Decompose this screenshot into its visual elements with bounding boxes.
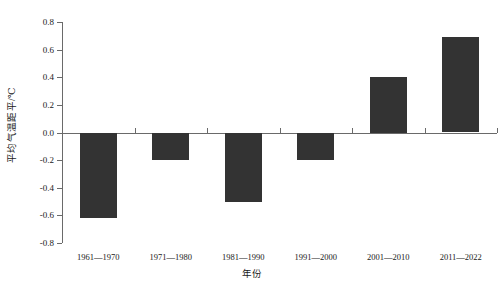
- bar: [80, 133, 117, 219]
- x-axis-tick: [497, 128, 498, 133]
- y-axis-tick: [57, 243, 62, 244]
- y-axis-tick-label-wrap: 0.4: [24, 77, 54, 78]
- y-axis-tick-label: 0.2: [26, 100, 54, 109]
- bar: [152, 133, 189, 161]
- x-axis-tick-label: 1991—2000: [280, 252, 353, 262]
- y-axis-title: 平均气温距平/℃: [0, 0, 22, 250]
- x-axis-tick-label: 2011—2022: [425, 252, 498, 262]
- x-axis-tick: [280, 128, 281, 133]
- y-axis-tick-label-wrap: -0.2: [24, 160, 54, 161]
- y-axis-tick: [57, 160, 62, 161]
- x-axis-title: 年份: [0, 266, 503, 280]
- y-axis-tick: [57, 22, 62, 23]
- y-axis-tick-label: 0.8: [26, 18, 54, 27]
- y-axis-tick-label: -0.8: [26, 239, 54, 248]
- y-axis-tick: [57, 188, 62, 189]
- y-axis-title-label: 平均气温距平/℃: [4, 87, 18, 163]
- x-axis-tick: [207, 128, 208, 133]
- x-axis-tick-label: 2001—2010: [352, 252, 425, 262]
- y-axis-tick: [57, 133, 62, 134]
- y-axis-tick-label-wrap: 0.6: [24, 50, 54, 51]
- y-axis-tick-label-wrap: -0.4: [24, 188, 54, 189]
- bar: [442, 37, 479, 132]
- y-axis-tick-label-wrap: -0.8: [24, 243, 54, 244]
- bar: [370, 77, 407, 132]
- y-axis-tick-label: 0.4: [26, 73, 54, 82]
- y-axis-tick-label-wrap: 0.0: [24, 133, 54, 134]
- y-axis-tick-label: 0.0: [26, 128, 54, 137]
- bar-chart: 平均气温距平/℃ 0.80.60.40.20.0-0.2-0.4-0.6-0.8…: [0, 0, 503, 286]
- y-axis-tick: [57, 77, 62, 78]
- bar: [225, 133, 262, 202]
- y-axis-tick-label: -0.4: [26, 183, 54, 192]
- y-axis-tick: [57, 105, 62, 106]
- x-axis-tick-label: 1961—1970: [62, 252, 135, 262]
- x-axis-tick: [135, 128, 136, 133]
- x-axis-tick: [352, 128, 353, 133]
- y-axis-tick: [57, 50, 62, 51]
- y-axis-tick-label-wrap: -0.6: [24, 215, 54, 216]
- y-axis-tick-label: -0.6: [26, 211, 54, 220]
- y-axis-tick-label: -0.2: [26, 156, 54, 165]
- bar: [297, 133, 334, 161]
- y-axis-tick: [57, 215, 62, 216]
- x-axis-tick: [425, 128, 426, 133]
- y-axis-tick-label-wrap: 0.8: [24, 22, 54, 23]
- x-axis-tick-label: 1971—1980: [135, 252, 208, 262]
- x-axis-title-label: 年份: [242, 269, 262, 279]
- y-axis-tick-label-wrap: 0.2: [24, 105, 54, 106]
- x-axis-zero-line: [62, 133, 497, 134]
- x-axis-tick-label: 1981—1990: [207, 252, 280, 262]
- y-axis-tick-label: 0.6: [26, 45, 54, 54]
